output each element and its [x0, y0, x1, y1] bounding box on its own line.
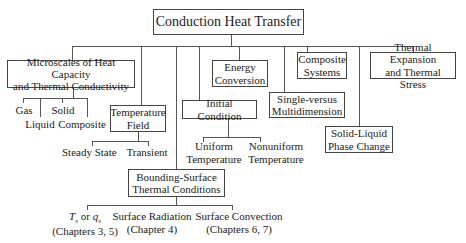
leaf-gas: Gas: [13, 104, 35, 117]
node-label: and Thermal Stress: [371, 66, 455, 90]
connector: [199, 46, 200, 100]
node-label: Conversion: [215, 74, 266, 86]
or-text: or: [78, 210, 93, 222]
leaf-label: Temperature: [186, 153, 242, 166]
connector: [23, 98, 88, 99]
leaf-surface-convection: Surface Convection (Chapters 6, 7): [195, 210, 283, 235]
node-label: Thermal Expansion: [371, 41, 455, 65]
node-label: Phase Change: [328, 140, 390, 152]
node-temperature-field: Temperature Field: [110, 105, 166, 132]
conduction-heat-transfer-diagram: Conduction Heat Transfer Microscales of …: [0, 0, 466, 243]
connector: [23, 98, 24, 103]
node-label: Thermal Conditions: [132, 183, 220, 195]
node-label: Initial Condition: [183, 97, 256, 121]
leaf-solid: Solid: [50, 104, 76, 117]
leaf-label: Ts or qs: [50, 210, 120, 225]
subscript-s: s: [98, 217, 101, 225]
node-solid-liquid-phase-change: Solid-Liquid Phase Change: [325, 126, 393, 153]
leaf-label: Nonuniform: [248, 140, 304, 153]
leaf-label: (Chapters 6, 7): [195, 223, 283, 236]
connector: [40, 98, 41, 117]
node-label: Composite: [298, 53, 346, 65]
connector: [92, 141, 149, 142]
node-label: Solid-Liquid: [331, 127, 387, 139]
connector: [239, 46, 240, 60]
leaf-liquid: Liquid: [22, 118, 58, 131]
node-thermal-expansion: Thermal Expansion and Thermal Stress: [370, 52, 456, 79]
leaf-label: Uniform: [186, 140, 242, 153]
connector: [87, 98, 88, 117]
leaf-label: Temperature: [248, 153, 304, 166]
connector: [141, 46, 142, 105]
leaf-label: Surface Radiation: [112, 210, 192, 223]
node-label: Multidimension: [272, 105, 342, 117]
connector: [138, 132, 139, 141]
leaf-transient: Transient: [126, 146, 168, 159]
node-single-versus-multidimension: Single-versus Multidimension: [269, 92, 345, 118]
node-bounding-surface: Bounding-Surface Thermal Conditions: [128, 169, 225, 197]
node-label: Bounding-Surface: [136, 171, 217, 183]
leaf-label: Surface Convection: [195, 210, 283, 223]
connector: [72, 46, 413, 47]
node-initial-condition: Initial Condition: [182, 100, 257, 119]
node-label: Systems: [304, 66, 341, 78]
leaf-label: (Chapters 3, 5): [50, 225, 120, 238]
node-label: Temperature: [110, 106, 165, 118]
node-label: Single-versus: [277, 93, 337, 105]
leaf-surface-radiation: Surface Radiation (Chapter 4): [112, 210, 192, 235]
connector: [203, 137, 261, 138]
connector: [231, 35, 232, 46]
connector: [359, 46, 360, 126]
node-label: and Thermal Conductivity: [13, 80, 129, 92]
leaf-label: (Chapter 4): [112, 223, 192, 236]
node-label: Energy: [224, 61, 256, 73]
connector: [176, 46, 177, 169]
leaf-nonuniform-temperature: Nonuniform Temperature: [248, 140, 304, 165]
leaf-ts-or-qs: Ts or qs (Chapters 3, 5): [50, 210, 120, 238]
connector: [284, 46, 285, 92]
node-label: Conduction Heat Transfer: [156, 14, 301, 29]
connector: [87, 205, 233, 206]
node-label: Microscales of Heat Capacity: [8, 56, 134, 80]
leaf-uniform-temperature: Uniform Temperature: [186, 140, 242, 165]
connector: [62, 98, 63, 103]
node-microscales: Microscales of Heat Capacity and Thermal…: [7, 60, 135, 88]
node-composite-systems: Composite Systems: [297, 52, 347, 79]
leaf-composite: Composite: [58, 118, 106, 131]
connector: [176, 196, 177, 205]
node-energy-conversion: Energy Conversion: [212, 60, 268, 87]
node-conduction-heat-transfer: Conduction Heat Transfer: [153, 9, 304, 35]
leaf-steady-state: Steady State: [62, 146, 116, 159]
node-label: Field: [127, 119, 150, 131]
